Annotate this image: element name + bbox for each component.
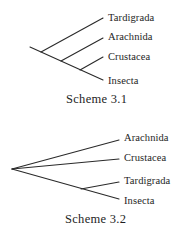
taxon-label: Arachnida [124,132,169,144]
branch-tardigrada [41,18,103,52]
taxon-label: Insecta [108,75,138,87]
branch-arachnida [12,140,119,169]
trunk-to-insecta [12,169,119,199]
scheme-caption: Scheme 3.1 [66,92,127,106]
scheme-3-1: Tardigrada Arachnida Crustacea Insecta S… [0,0,179,116]
branch-arachnida [61,38,103,61]
branch-crustacea [12,159,119,169]
taxon-label: Crustacea [124,152,166,164]
taxon-label: Tardigrada [108,12,154,24]
scheme-caption: Scheme 3.2 [65,212,126,226]
branch-crustacea [80,57,103,70]
taxon-label: Tardigrada [124,175,170,187]
taxon-label: Crustacea [108,51,150,63]
taxon-label: Arachnida [108,31,153,43]
taxon-label: Insecta [124,195,154,207]
branch-tardigrada [81,182,119,189]
scheme-3-2: Arachnida Crustacea Tardigrada Insecta S… [0,116,179,232]
